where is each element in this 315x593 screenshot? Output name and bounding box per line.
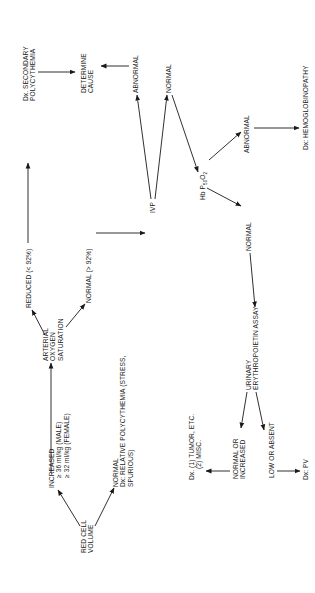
node-text: NORMAL (165, 64, 172, 93)
node-text: VOLUME (87, 520, 94, 553)
node-arterial-oxygen-saturation: ARTERIAL OXYGEN SATURATION (42, 318, 64, 361)
node-text: Dx: RELATIVE POLYCYTHEMIA (STRESS, (119, 356, 126, 487)
node-text: NORMAL (112, 356, 119, 487)
edge-rcv-normal (95, 488, 114, 526)
edge-urinary-noi (241, 392, 247, 428)
node-text: SATURATION (57, 318, 64, 361)
node-text: ARTERIAL (42, 318, 49, 361)
node-hb-p50o2: Hb P50O2 (199, 172, 206, 200)
node-text: URINARY (245, 307, 252, 390)
node-text: (2) MISC. (195, 414, 202, 480)
edge-hb-normal (207, 188, 241, 206)
node-text: Dx: PV (302, 459, 309, 480)
edge-arterial-normal (66, 304, 85, 327)
node-text: SPURIOUS) (127, 356, 134, 487)
flowchart-page: RED CELL VOLUME INCREASED ≥ 36 ml/kg (MA… (0, 0, 315, 593)
node-normal-o2: NORMAL (> 92%) (85, 249, 92, 303)
node-text: Hb P50O2 (199, 172, 206, 200)
node-text: Dx. SECONDARY (22, 46, 29, 101)
node-text: ABNORMAL (132, 55, 139, 93)
node-determine-cause: DETERMINE CAUSE (80, 53, 95, 93)
edge-rcv-increased (58, 490, 80, 526)
node-text: ≥ 36 ml/kg (MALE) (55, 413, 62, 488)
node-red-cell-volume: RED CELL VOLUME (80, 520, 95, 553)
node-text: INCREASED (239, 438, 246, 479)
node-text: IVP (149, 202, 156, 213)
edge-ivp-abnormal (137, 95, 151, 199)
node-dx-secondary-polycythemia: Dx. SECONDARY POLYCYTHEMIA (22, 46, 37, 101)
node-text: INCREASED (48, 413, 55, 488)
hb-subscript: 50 (203, 180, 208, 185)
node-text: OXYGEN (49, 318, 56, 361)
node-text: DETERMINE (80, 53, 87, 93)
node-low-or-absent: LOW OR ABSENT (268, 422, 275, 478)
node-dx-hemoglobinopathy: Dx: HEMOGLOBINOPATHY (302, 65, 309, 150)
node-text: ERYTHROPOIETIN ASSAY (252, 307, 259, 390)
node-hb-normal: NORMAL (245, 222, 252, 251)
edge-hb-abnormal (209, 132, 241, 160)
node-text: LOW OR ABSENT (268, 422, 275, 478)
node-urinary-erythropoietin-assay: URINARY ERYTHROPOIETIN ASSAY (245, 307, 260, 390)
node-reduced: REDUCED (< 92%) (25, 249, 32, 308)
node-text: NORMAL (245, 222, 252, 251)
edge-normal-urinary (250, 253, 255, 307)
node-text: Dx. (1) TUMOR, ETC. (188, 414, 195, 480)
hb-suffix: O (199, 174, 206, 179)
edge-normal-hb (172, 95, 198, 172)
edge-ivp-normal (155, 95, 167, 199)
node-dx-tumor-misc: Dx. (1) TUMOR, ETC. (2) MISC. (188, 414, 203, 480)
node-text: Dx: HEMOGLOBINOPATHY (302, 65, 309, 150)
node-increased: INCREASED ≥ 36 ml/kg (MALE) ≥ 32 ml/kg (… (48, 413, 70, 488)
node-ivp-abnormal: ABNORMAL (132, 55, 139, 93)
node-ivp-normal: NORMAL (165, 64, 172, 93)
node-text: NORMAL OR (232, 438, 239, 479)
node-hb-abnormal: ABNORMAL (243, 115, 250, 153)
node-text: POLYCYTHEMIA (29, 46, 36, 101)
edge-urinary-low (256, 392, 264, 430)
node-text: ≥ 32 ml/kg (FEMALE) (63, 413, 70, 488)
node-text: REDUCED (< 92%) (25, 249, 32, 308)
hb-suffix-subscript: 2 (203, 172, 208, 175)
node-dx-pv: Dx: PV (302, 459, 309, 480)
node-text: CAUSE (87, 53, 94, 93)
node-text: RED CELL (80, 520, 87, 553)
node-text: NORMAL (> 92%) (85, 249, 92, 303)
hb-prefix: Hb P (199, 185, 206, 200)
node-text: ABNORMAL (243, 115, 250, 153)
flowchart-edges (0, 0, 315, 593)
node-ivp: IVP (149, 202, 156, 213)
node-normal-or-increased: NORMAL OR INCREASED (232, 438, 247, 479)
node-normal-relative-polycythemia: NORMAL Dx: RELATIVE POLYCYTHEMIA (STRESS… (112, 356, 134, 487)
